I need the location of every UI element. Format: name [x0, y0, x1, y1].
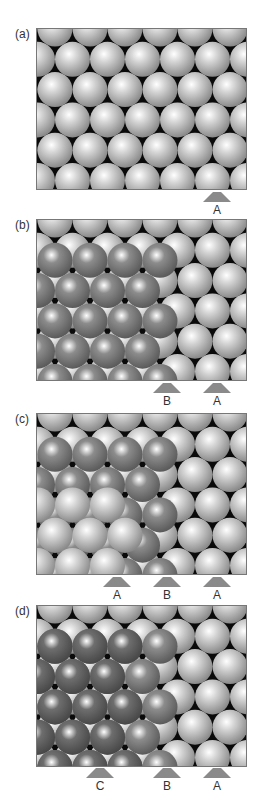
panel-c-marker-b-label: B	[157, 588, 177, 602]
sphere-layer-a	[37, 29, 247, 190]
panel-d-marker-c-label: C	[90, 779, 110, 793]
arrow-up-icon	[203, 383, 231, 393]
panel-b-label: (b)	[15, 218, 30, 232]
sphere-layers-ab	[37, 220, 247, 381]
sphere-layers-aba	[37, 414, 247, 575]
sphere-layers-abc	[37, 606, 247, 767]
panel-c-sphere-grid	[36, 413, 247, 575]
arrow-up-icon	[153, 383, 181, 393]
panel-b-sphere-grid	[36, 219, 247, 381]
arrow-up-icon	[203, 577, 231, 587]
panel-d-marker-a-label: A	[207, 779, 227, 793]
panel-d-marker-b-label: B	[157, 779, 177, 793]
panel-d-sphere-grid	[36, 605, 247, 767]
panel-b-marker-a-label: A	[207, 394, 227, 408]
arrow-up-icon	[203, 192, 231, 202]
panel-c-marker-a1-label: A	[107, 588, 127, 602]
panel-d-label: (d)	[15, 604, 30, 618]
panel-a-sphere-grid	[36, 28, 247, 190]
panel-c-marker-a2-label: A	[207, 588, 227, 602]
panel-a-marker-a-label: A	[207, 203, 227, 217]
arrow-up-icon	[203, 768, 231, 778]
panel-a-label: (a)	[15, 27, 30, 41]
arrow-up-icon	[153, 577, 181, 587]
arrow-up-icon	[153, 768, 181, 778]
arrow-up-icon	[103, 577, 131, 587]
panel-b-marker-b-label: B	[157, 394, 177, 408]
arrow-up-icon	[86, 768, 114, 778]
panel-c-label: (c)	[15, 412, 29, 426]
